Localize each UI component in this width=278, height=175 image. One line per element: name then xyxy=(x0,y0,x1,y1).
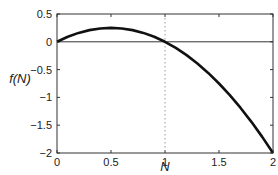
x-tick-label: 2 xyxy=(270,156,276,168)
x-tick-label: 1.5 xyxy=(211,156,226,168)
chart: 0.50−0.5−1−1.5−2 00.511.52 f(N) N xyxy=(0,0,278,175)
y-tick-labels: 0.50−0.5−1−1.5−2 xyxy=(30,8,52,159)
x-axis-label: N xyxy=(160,159,170,174)
x-tick-label: 0 xyxy=(54,156,60,168)
y-tick-label: 0 xyxy=(46,36,52,48)
y-tick-label: −2 xyxy=(39,147,52,159)
y-tick-label: 0.5 xyxy=(37,8,52,20)
x-tick-label: 0.5 xyxy=(103,156,118,168)
y-tick-label: −1.5 xyxy=(30,119,52,131)
y-tick-label: −0.5 xyxy=(30,64,52,76)
y-tick-label: −1 xyxy=(39,91,52,103)
y-axis-label: f(N) xyxy=(9,71,31,86)
